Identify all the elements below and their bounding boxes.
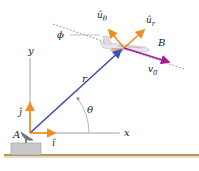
j-hat-label: ĵ [17,107,23,117]
u-r-label: ûr [146,15,156,28]
r-label: r [82,73,88,84]
u-theta-label: ûθ [97,10,108,23]
theta-label: θ [87,104,93,115]
v0-label: v0 [148,64,158,77]
point-b-label: B [157,37,165,48]
x-axis-label: x [124,127,130,138]
theta-arc-arrowhead [76,97,80,101]
i-hat-label: î [52,138,56,148]
r-vector [30,50,121,133]
y-axis-label: y [27,45,34,56]
point-a-label: A [12,129,20,140]
diagram-canvas: y x θ ϕ r î ĵ A ûr ûθ B v0 [0,0,199,171]
u-r-vector [124,30,144,48]
ground-shadow [4,156,199,158]
airplane-icon [100,36,150,52]
phi-label: ϕ [57,29,64,40]
radar-platform [11,143,41,155]
